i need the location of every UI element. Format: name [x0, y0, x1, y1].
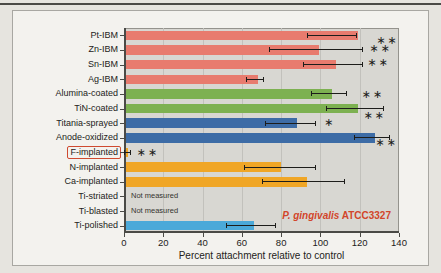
- y-axis-tick: [120, 123, 124, 124]
- error-bar-cap: [315, 165, 316, 170]
- error-bar-cap: [124, 150, 125, 155]
- error-bar-cap: [307, 33, 308, 38]
- x-tick-label: 0: [109, 237, 139, 248]
- error-bar: [311, 93, 346, 94]
- error-bar-cap: [362, 47, 363, 52]
- gridline: [360, 28, 361, 233]
- error-bar-cap: [265, 121, 266, 126]
- y-axis-tick: [120, 182, 124, 183]
- y-axis-tick: [120, 167, 124, 168]
- row-label-text: Anode-oxidized: [56, 132, 118, 143]
- row-label-text: Ca-implanted: [64, 176, 118, 187]
- y-axis-tick: [120, 94, 124, 95]
- bar: [126, 75, 258, 85]
- y-axis-tick: [120, 226, 124, 227]
- error-bar: [262, 181, 345, 182]
- row-label: F-implanted: [6, 146, 118, 159]
- error-bar-cap: [244, 165, 245, 170]
- gridline: [281, 28, 282, 233]
- error-bar: [246, 79, 264, 80]
- bar: [126, 133, 375, 143]
- row-label: Anode-oxidized: [6, 131, 118, 144]
- error-bar: [269, 49, 361, 50]
- page-divider-rule: [0, 3, 441, 5]
- x-tick-label: 100: [305, 237, 335, 248]
- row-label: Titania-sprayed: [6, 117, 118, 130]
- y-axis-tick: [120, 138, 124, 139]
- error-bar: [244, 167, 315, 168]
- row-label-text: Alumina-coated: [55, 88, 118, 99]
- error-bar-cap: [226, 223, 227, 228]
- gridline: [242, 28, 243, 233]
- gridline: [163, 28, 164, 233]
- row-label-text: Ti-striated: [78, 191, 118, 202]
- y-axis-tick: [120, 196, 124, 197]
- error-bar: [307, 35, 356, 36]
- significance-marker: ∗∗: [368, 56, 390, 68]
- row-label-text: Sn-IBM: [88, 59, 118, 70]
- error-bar: [226, 225, 275, 226]
- x-tick-label: 40: [188, 237, 218, 248]
- error-bar-cap: [130, 150, 131, 155]
- strain-id: ATCC3327: [339, 210, 391, 221]
- error-bar-cap: [346, 91, 347, 96]
- row-label: Ti-blasted: [6, 205, 118, 218]
- row-label: Sn-IBM: [6, 58, 118, 71]
- significance-marker: ∗∗: [137, 146, 159, 158]
- error-bar-cap: [315, 121, 316, 126]
- row-label-text: F-implanted: [67, 146, 121, 159]
- y-axis-tick: [120, 109, 124, 110]
- y-axis-tick: [120, 65, 124, 66]
- row-label: Ti-striated: [6, 190, 118, 203]
- y-axis-line: [124, 28, 126, 233]
- plot-area: ∗∗∗∗∗∗∗∗∗∗∗∗∗∗∗Not measuredNot measured …: [124, 28, 399, 233]
- not-measured-note: Not measured: [131, 191, 178, 201]
- bar: [126, 89, 332, 99]
- row-label-text: Titania-sprayed: [56, 118, 118, 129]
- x-tick-label: 140: [384, 237, 414, 248]
- species-name: P. gingivalis: [282, 210, 339, 221]
- error-bar-cap: [344, 179, 345, 184]
- bar: [126, 104, 358, 114]
- error-bar-cap: [354, 135, 355, 140]
- y-axis-tick: [120, 211, 124, 212]
- x-axis-title: Percent attachment relative to control: [124, 250, 399, 262]
- x-tick-label: 60: [227, 237, 257, 248]
- row-label-text: Ag-IBM: [88, 74, 118, 85]
- row-label-text: Ti-blasted: [79, 206, 118, 217]
- row-label: Alumina-coated: [6, 87, 118, 100]
- row-label-text: Ti-polished: [74, 220, 118, 231]
- significance-marker: ∗∗: [375, 136, 397, 148]
- error-bar-cap: [326, 106, 327, 111]
- error-bar-cap: [275, 223, 276, 228]
- row-label: N-implanted: [6, 161, 118, 174]
- not-measured-note: Not measured: [131, 206, 178, 216]
- error-bar-cap: [246, 77, 247, 82]
- error-bar-cap: [311, 91, 312, 96]
- gridline: [320, 28, 321, 233]
- row-label-text: Zn-IBM: [88, 44, 118, 55]
- x-axis-line: [124, 231, 399, 233]
- x-tick-label: 20: [148, 237, 178, 248]
- row-label: Pt-IBM: [6, 29, 118, 42]
- row-label-text: Pt-IBM: [90, 30, 118, 41]
- error-bar-cap: [262, 179, 263, 184]
- y-axis-tick: [120, 152, 124, 153]
- row-label-text: TiN-coated: [74, 103, 118, 114]
- row-label: Ti-polished: [6, 219, 118, 232]
- row-label: Zn-IBM: [6, 43, 118, 56]
- y-axis-tick: [120, 35, 124, 36]
- row-label: Ag-IBM: [6, 73, 118, 86]
- significance-marker: ∗∗: [370, 42, 392, 54]
- row-label: Ca-implanted: [6, 175, 118, 188]
- row-label: TiN-coated: [6, 102, 118, 115]
- significance-marker: ∗∗: [362, 88, 384, 100]
- strain-annotation: P. gingivalis ATCC3327: [282, 210, 391, 222]
- error-bar-cap: [263, 77, 264, 82]
- error-bar: [265, 123, 314, 124]
- y-axis-tick: [120, 50, 124, 51]
- y-axis-tick: [120, 79, 124, 80]
- error-bar-cap: [303, 62, 304, 67]
- gridline: [203, 28, 204, 233]
- error-bar-cap: [362, 62, 363, 67]
